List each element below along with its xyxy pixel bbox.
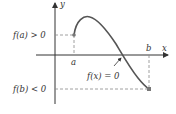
zero-label: f(x) = 0	[86, 71, 120, 81]
x-axis-label: x	[162, 43, 167, 53]
fa-label: f(a) > 0	[12, 30, 46, 40]
zero-pointer-arrow	[114, 58, 121, 66]
b-label: b	[146, 43, 151, 53]
a-label: a	[71, 57, 76, 67]
point-a	[72, 33, 76, 37]
point-b	[147, 87, 151, 91]
fb-label: f(b) < 0	[12, 84, 47, 94]
y-axis-label: y	[59, 0, 65, 9]
ivt-diagram: y x a b f(a) > 0 f(b) < 0 f(x) = 0	[0, 0, 176, 114]
